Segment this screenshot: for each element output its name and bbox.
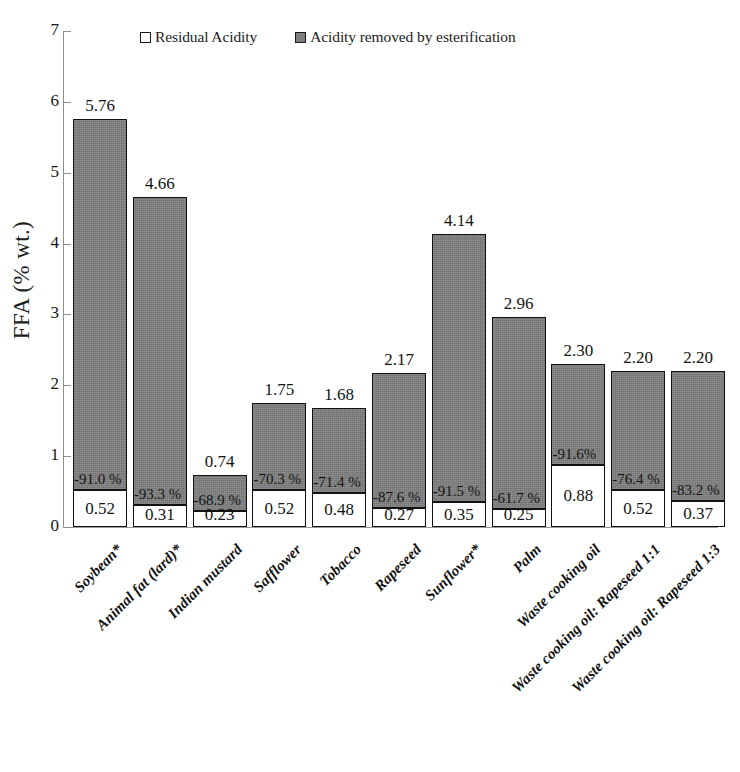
bar-residual-value-label: 0.25: [492, 505, 546, 525]
bar-series-container: 5.76-91.0 %0.524.66-93.3 %0.310.74-68.9 …: [73, 31, 718, 527]
y-tick-label: 7: [33, 20, 59, 40]
bar-percent-reduction-label: -91.0 %: [73, 471, 129, 488]
y-tick-label: 1: [33, 445, 59, 465]
x-axis-category-labels: Soybean*Animal fat (lard)*Indian mustard…: [63, 527, 740, 772]
y-axis-title-text: FFA (% wt.): [9, 221, 35, 339]
x-axis-category-label: Tobacco: [317, 541, 366, 590]
y-tick-mark: [64, 31, 71, 32]
x-axis-category-label: Palm: [509, 541, 544, 576]
plot-area: 01234567 5.76-91.0 %0.524.66-93.3 %0.310…: [63, 31, 718, 527]
bar-group[interactable]: 2.20-76.4 %0.52: [611, 371, 665, 527]
bar-percent-reduction-label: -76.4 %: [611, 471, 667, 488]
y-axis-line: [63, 31, 64, 527]
bar-segment-acidity-removed[interactable]: [432, 234, 486, 503]
bar-group[interactable]: 2.96-61.7 %0.25: [492, 317, 546, 527]
bar-total-label: 2.30: [545, 341, 611, 361]
bar-segment-acidity-removed[interactable]: [492, 317, 546, 509]
y-tick-mark: [64, 314, 71, 315]
bar-residual-value-label: 0.27: [372, 505, 426, 525]
bar-residual-value-label: 0.37: [671, 504, 725, 524]
bar-residual-value-label: 0.52: [611, 499, 665, 519]
bar-segment-acidity-removed[interactable]: [73, 119, 127, 490]
bar-total-label: 0.74: [187, 452, 253, 472]
bar-residual-value-label: 0.52: [73, 499, 127, 519]
bar-group[interactable]: 0.74-68.9 %0.23: [193, 475, 247, 527]
bar-segment-acidity-removed[interactable]: [133, 197, 187, 505]
y-tick-label: 4: [33, 233, 59, 253]
x-axis-category-label: Safflower: [251, 541, 306, 596]
bar-group[interactable]: 2.17-87.6 %0.27: [372, 373, 426, 527]
y-tick-mark: [64, 385, 71, 386]
x-axis-category-label: Sunflower*: [421, 541, 484, 604]
bar-group[interactable]: 1.68-71.4 %0.48: [312, 408, 366, 527]
bar-group[interactable]: 1.75-70.3 %0.52: [252, 403, 306, 527]
bar-total-label: 1.75: [246, 380, 312, 400]
bar-percent-reduction-label: -87.6 %: [372, 489, 428, 506]
bar-total-label: 5.76: [67, 96, 133, 116]
bar-segment-acidity-removed[interactable]: [372, 373, 426, 508]
y-tick-mark: [64, 244, 71, 245]
y-tick-label: 0: [33, 516, 59, 536]
y-tick-label: 5: [33, 162, 59, 182]
bar-residual-value-label: 0.88: [551, 486, 605, 506]
y-tick-mark: [64, 456, 71, 457]
bar-percent-reduction-label: -70.3 %: [252, 471, 308, 488]
bar-residual-value-label: 0.31: [133, 505, 187, 525]
bar-total-label: 2.96: [486, 294, 552, 314]
bar-percent-reduction-label: -71.4 %: [312, 474, 368, 491]
bar-residual-value-label: 0.35: [432, 505, 486, 525]
y-tick-label: 2: [33, 374, 59, 394]
y-axis-title: FFA (% wt.): [2, 0, 42, 560]
bar-total-label: 2.20: [665, 348, 731, 368]
bar-total-label: 4.66: [127, 174, 193, 194]
bar-percent-reduction-label: -91.6%: [551, 446, 607, 463]
y-tick-mark: [64, 173, 71, 174]
bar-group[interactable]: 5.76-91.0 %0.52: [73, 119, 127, 527]
ffa-stacked-bar-chart: Residual Acidity Acidity removed by este…: [0, 0, 740, 772]
y-tick-label: 3: [33, 303, 59, 323]
bar-group[interactable]: 4.14-91.5 %0.35: [432, 234, 486, 527]
y-tick-label: 6: [33, 91, 59, 111]
bar-residual-value-label: 0.48: [312, 500, 366, 520]
bar-group[interactable]: 4.66-93.3 %0.31: [133, 197, 187, 527]
bar-group[interactable]: 2.30-91.6%0.88: [551, 364, 605, 527]
bar-total-label: 1.68: [306, 385, 372, 405]
x-axis-category-label: Soybean*: [71, 541, 126, 596]
bar-total-label: 4.14: [426, 211, 492, 231]
bar-percent-reduction-label: -83.2 %: [671, 482, 727, 499]
bar-group[interactable]: 2.20-83.2 %0.37: [671, 371, 725, 527]
bar-residual-value-label: 0.23: [193, 505, 247, 525]
bar-percent-reduction-label: -93.3 %: [133, 486, 189, 503]
bar-total-label: 2.17: [366, 350, 432, 370]
bar-percent-reduction-label: -91.5 %: [432, 483, 488, 500]
x-axis-category-label: Rapeseed: [371, 541, 425, 595]
bar-residual-value-label: 0.52: [252, 499, 306, 519]
bar-total-label: 2.20: [605, 348, 671, 368]
